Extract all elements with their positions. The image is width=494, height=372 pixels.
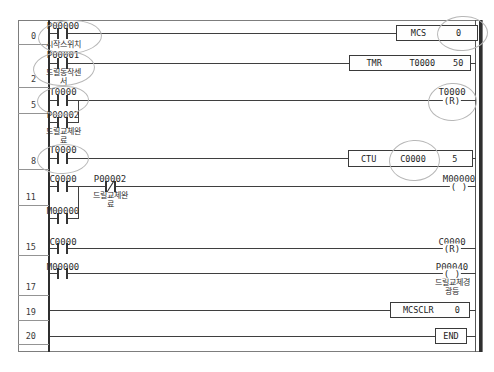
device-label: C0000 <box>49 237 76 247</box>
rung-20-wire <box>50 336 476 337</box>
instruction-operand: T0000 <box>398 58 446 68</box>
row-separator <box>18 87 49 88</box>
step-number-5: 5 <box>17 100 36 110</box>
reset-coil-c0000: (R) <box>443 244 461 254</box>
row-separator <box>18 295 49 296</box>
rung-15-wire <box>50 248 476 249</box>
row-separator <box>18 255 49 256</box>
instruction-mnemonic: TMR <box>350 58 398 68</box>
instruction-mnemonic: MCS <box>397 28 440 38</box>
device-label: P00002 <box>94 174 127 184</box>
row-separator <box>18 113 49 114</box>
tmr-instruction-box: TMR T0000 50 <box>349 55 471 71</box>
step-number-20: 20 <box>17 331 36 341</box>
row-separator <box>18 320 49 321</box>
row-separator <box>18 344 49 345</box>
device-label: M00000 <box>47 262 80 272</box>
comment-drill-replace-done-1: 드릴교체완 <box>93 192 128 200</box>
rung-17-wire <box>50 273 476 274</box>
step-number-17: 17 <box>17 282 36 292</box>
output-coil-m00000: ( ) <box>450 182 468 192</box>
instruction-mnemonic: END <box>436 331 466 341</box>
comment-drill-replace-done-1: 드릴교체완 <box>46 128 81 136</box>
right-power-rail <box>479 20 482 352</box>
instruction-preset: 5 <box>438 154 472 164</box>
step-number-0: 0 <box>17 31 36 41</box>
step-number-8: 8 <box>17 156 36 166</box>
rung-5-wire <box>50 100 476 101</box>
end-instruction-box: END <box>435 328 467 344</box>
comment-drill-lamp-2: 광등 <box>445 288 459 296</box>
instruction-mnemonic: MCSCLR <box>391 305 446 315</box>
device-label: M00000 <box>47 206 80 216</box>
step-number-19: 19 <box>17 307 36 317</box>
output-coil-p00040: ( ) <box>443 269 461 279</box>
mcsclr-instruction-box: MCSCLR 0 <box>390 302 470 318</box>
comment-drill-replace-done-2: 료 <box>107 201 114 209</box>
instruction-operand: 0 <box>446 305 469 315</box>
instruction-mnemonic: CTU <box>349 154 388 164</box>
device-label: C0000 <box>49 174 76 184</box>
step-number-15: 15 <box>17 242 36 252</box>
comment-drill-lamp-1: 드릴교체경 <box>435 279 470 287</box>
step-number-2: 2 <box>17 74 36 84</box>
ladder-diagram-page: 0 2 5 8 11 15 17 19 20 P00000 P00001 T00… <box>0 0 494 372</box>
instruction-preset: 50 <box>446 58 470 68</box>
row-separator <box>18 205 49 206</box>
step-number-11: 11 <box>17 192 36 202</box>
